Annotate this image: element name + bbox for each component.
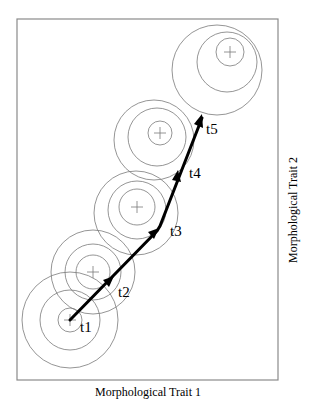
ring-t5-2 (197, 32, 257, 92)
ring-t4-2 (128, 108, 186, 166)
ring-t5-3 (172, 25, 262, 115)
x-axis-label: Morphological Trait 1 (95, 385, 201, 399)
trait-trajectory-diagram: t1 t2 t3 t4 t5 Morphological Trait 1 Mor… (0, 0, 311, 402)
arrowhead-t5-icon (194, 114, 203, 128)
label-t3: t3 (170, 223, 182, 239)
label-t2: t2 (118, 284, 130, 300)
group-centroid-markers (64, 46, 236, 326)
label-t1: t1 (80, 319, 92, 335)
label-t5: t5 (206, 121, 218, 137)
centroid-plus-icon-t4 (154, 127, 166, 139)
y-axis-label: Morphological Trait 2 (286, 157, 300, 263)
centroid-plus-icon-t3 (131, 201, 143, 213)
trajectory-line (70, 118, 202, 320)
morphospace-rings (22, 25, 262, 368)
centroid-plus-icon-t5 (224, 46, 236, 58)
plot-frame (17, 19, 278, 380)
label-t4: t4 (189, 165, 201, 181)
